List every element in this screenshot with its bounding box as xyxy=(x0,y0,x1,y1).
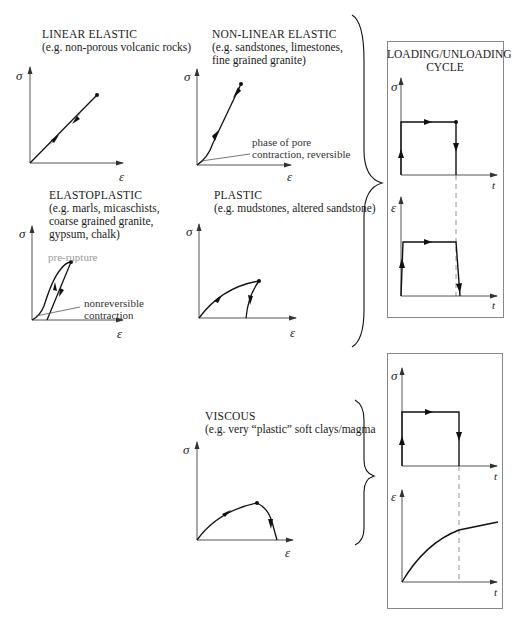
linear-elastic-subtitle: (e.g. non-porous volcanic rocks) xyxy=(42,40,191,54)
plastic-title: PLASTIC xyxy=(214,188,262,202)
plastic-subtitle: (e.g. mudstones, altered sandstone) xyxy=(214,201,376,215)
non-linear-elastic-subtitle-1: (e.g. sandstones, limestones, xyxy=(212,40,343,54)
viscous-stress-symbol: σ xyxy=(183,443,189,456)
non-linear-elastic-title: NON-LINEAR ELASTIC xyxy=(212,27,337,41)
bottom-box-strain-symbol: ε xyxy=(391,490,396,503)
nonreversible-note-2: contraction xyxy=(84,309,133,322)
pre-rupture-note: pre-rupture xyxy=(48,251,97,264)
bottom-box-time-symbol-2: t xyxy=(494,586,497,599)
elastoplastic-subtitle-2: coarse grained granite, xyxy=(49,214,153,228)
bottom-box-time-symbol-1: t xyxy=(494,470,497,483)
elastoplastic-subtitle-1: (e.g. marls, micaschists, xyxy=(49,201,160,215)
plastic-strain-symbol: ε xyxy=(290,326,295,339)
linear-elastic-strain-symbol: ε xyxy=(119,170,124,183)
linear-elastic-title: LINEAR ELASTIC xyxy=(42,27,137,41)
linear-elastic-stress-symbol: σ xyxy=(16,69,22,82)
elastoplastic-subtitle-3: gypsum, chalk) xyxy=(49,227,120,241)
elastoplastic-title: ELASTOPLASTIC xyxy=(49,188,142,202)
viscous-subtitle: (e.g. very “plastic” soft clays/magma xyxy=(205,422,376,436)
elastoplastic-strain-symbol: ε xyxy=(117,327,122,340)
plastic-stress-symbol: σ xyxy=(186,225,192,238)
bottom-box-stress-symbol: σ xyxy=(391,369,397,382)
viscous-title: VISCOUS xyxy=(205,409,256,423)
elastoplastic-stress-symbol: σ xyxy=(19,227,25,240)
viscous-strain-symbol: ε xyxy=(285,546,290,559)
cycle-graphics-bottom xyxy=(0,0,518,624)
pore-contraction-note-2: contraction, reversible xyxy=(252,148,350,161)
non-linear-elastic-subtitle-2: fine grained granite) xyxy=(212,53,306,67)
creep-curve xyxy=(402,522,498,582)
non-linear-elastic-stress-symbol: σ xyxy=(184,70,190,83)
non-linear-elastic-strain-symbol: ε xyxy=(287,170,292,183)
